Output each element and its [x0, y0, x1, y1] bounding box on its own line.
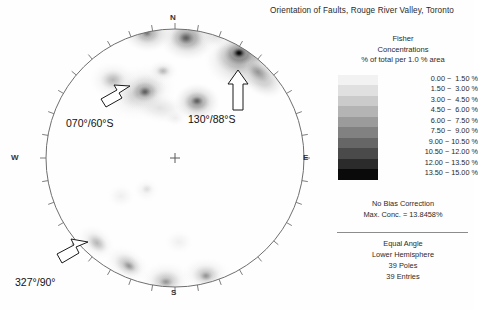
legend-swatch-8 [338, 159, 378, 170]
legend-swatch-9 [338, 169, 378, 180]
bias-correction-note: No Bias Correction [332, 198, 474, 209]
legend-range-4: 6.00 ~ 7.50 % [392, 116, 478, 127]
legend-swatch-7 [338, 148, 378, 159]
notes-block: No Bias Correction Max. Conc. = 13.8458% [332, 198, 474, 220]
annotation-label-327-90: 327°/90° [15, 276, 56, 288]
legend-panel: Fisher Concentrations % of total per 1.0… [332, 34, 474, 181]
legend-range-0: 0.00 ~ 1.50 % [392, 74, 478, 85]
direction-label-south: S [171, 288, 176, 297]
legend-line-concentrations: Concentrations [332, 45, 474, 56]
hemisphere-type: Lower Hemisphere [332, 249, 474, 260]
legend-range-7: 10.50 ~ 12.00 % [392, 147, 478, 158]
legend-scale: 0.00 ~ 1.50 %1.50 ~ 3.00 %3.00 ~ 4.50 %4… [332, 75, 474, 181]
legend-swatch-5 [338, 127, 378, 138]
stereonet-diagram: N S W E 070°/60°S 130°/88°S 327°/90° [0, 0, 330, 310]
legend-range-1: 1.50 ~ 3.00 % [392, 84, 478, 95]
stereonet-svg [0, 0, 330, 310]
max-concentration-note: Max. Conc. = 13.8458% [332, 209, 474, 220]
legend-range-labels: 0.00 ~ 1.50 %1.50 ~ 3.00 %3.00 ~ 4.50 %4… [392, 74, 478, 179]
legend-swatch-3 [338, 106, 378, 117]
annotation-label-070-60s: 070°/60°S [66, 117, 114, 129]
section-divider [337, 232, 468, 233]
legend-range-3: 4.50 ~ 6.00 % [392, 105, 478, 116]
legend-line-units: % of total per 1.0 % area [332, 55, 474, 66]
legend-range-9: 13.50 ~ 15.00 % [392, 168, 478, 179]
legend-range-2: 3.00 ~ 4.50 % [392, 95, 478, 106]
legend-line-fisher: Fisher [332, 34, 474, 45]
legend-swatch-6 [338, 138, 378, 149]
legend-color-ramp [338, 75, 378, 180]
direction-label-west: W [11, 153, 19, 162]
annotation-label-130-88s: 130°/88°S [188, 113, 236, 125]
direction-label-east: E [303, 153, 308, 162]
arrow-327-90 [57, 239, 88, 263]
projection-info-block: Equal Angle Lower Hemisphere 39 Poles 39… [332, 238, 474, 282]
direction-label-north: N [170, 13, 176, 22]
legend-swatch-4 [338, 117, 378, 128]
legend-heading: Fisher Concentrations % of total per 1.0… [332, 34, 474, 66]
legend-range-5: 7.50 ~ 9.00 % [392, 126, 478, 137]
legend-range-6: 9.00 ~ 10.50 % [392, 137, 478, 148]
center-cross-marker [170, 153, 180, 163]
legend-swatch-0 [338, 75, 378, 86]
legend-swatch-1 [338, 85, 378, 96]
pole-count: 39 Poles [332, 260, 474, 271]
entry-count: 39 Entries [332, 271, 474, 282]
legend-swatch-2 [338, 96, 378, 107]
legend-range-8: 12.00 ~ 13.50 % [392, 158, 478, 169]
projection-type: Equal Angle [332, 238, 474, 249]
